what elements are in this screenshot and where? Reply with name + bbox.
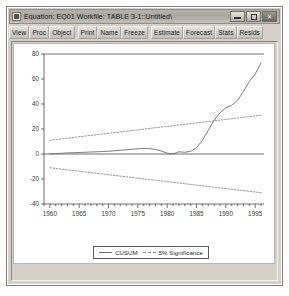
- svg-text:-40: -40: [30, 200, 40, 207]
- toolbar-button-name[interactable]: Name: [97, 26, 121, 39]
- toolbar: View Proc Object Print Name Freeze Estim…: [9, 26, 280, 39]
- window-title: Equation: EQ01 Workfile: TABLE 3-1::Unti…: [24, 13, 230, 20]
- close-icon: ✕: [267, 14, 272, 20]
- maximize-icon: [251, 14, 257, 20]
- legend-swatch-significance-icon: [143, 252, 156, 253]
- maximize-button[interactable]: [246, 11, 261, 22]
- window-controls: ✕: [230, 11, 277, 22]
- svg-text:80: 80: [32, 50, 40, 57]
- svg-text:1965: 1965: [72, 210, 87, 217]
- toolbar-button-forecast[interactable]: Forecast: [183, 26, 215, 39]
- svg-text:0: 0: [35, 150, 39, 157]
- minimize-icon: [234, 17, 241, 19]
- equation-client-area: 806040200-20-401960196519701975198019851…: [11, 41, 278, 281]
- svg-text:1975: 1975: [131, 210, 146, 217]
- svg-text:20: 20: [32, 125, 40, 132]
- svg-text:1960: 1960: [43, 210, 58, 217]
- legend-entry-cusum: CUSUM: [99, 250, 138, 256]
- svg-text:40: 40: [32, 100, 40, 107]
- minimize-button[interactable]: [230, 11, 245, 22]
- close-button[interactable]: ✕: [262, 11, 277, 22]
- legend-label-significance: 5% Significance: [159, 250, 203, 256]
- toolbar-button-print[interactable]: Print: [78, 26, 98, 39]
- chart-legend: CUSUM 5% Significance: [93, 246, 209, 259]
- svg-text:1990: 1990: [219, 210, 234, 217]
- toolbar-button-stats[interactable]: Stats: [215, 26, 236, 39]
- toolbar-button-object[interactable]: Object: [49, 26, 74, 39]
- svg-text:1985: 1985: [189, 210, 204, 217]
- svg-text:-20: -20: [30, 175, 40, 182]
- toolbar-button-resids[interactable]: Resids: [237, 26, 263, 39]
- legend-entry-significance: 5% Significance: [143, 250, 203, 256]
- toolbar-button-freeze[interactable]: Freeze: [121, 26, 148, 39]
- cusum-chart-panel: 806040200-20-401960196519701975198019851…: [13, 43, 275, 264]
- svg-text:60: 60: [32, 75, 40, 82]
- title-bar: Equation: EQ01 Workfile: TABLE 3-1::Unti…: [9, 9, 280, 24]
- equation-window: Equation: EQ01 Workfile: TABLE 3-1::Unti…: [6, 6, 283, 286]
- system-menu-icon[interactable]: [12, 12, 21, 21]
- toolbar-button-estimate[interactable]: Estimate: [151, 26, 183, 39]
- svg-text:1995: 1995: [248, 210, 263, 217]
- toolbar-filler: [263, 26, 280, 39]
- toolbar-button-view[interactable]: View: [9, 26, 29, 39]
- cusum-chart: 806040200-20-401960196519701975198019851…: [14, 44, 274, 263]
- legend-swatch-cusum-icon: [99, 252, 112, 253]
- legend-label-cusum: CUSUM: [115, 250, 138, 256]
- svg-text:1970: 1970: [101, 210, 116, 217]
- svg-text:1980: 1980: [160, 210, 175, 217]
- toolbar-button-proc[interactable]: Proc: [29, 26, 49, 39]
